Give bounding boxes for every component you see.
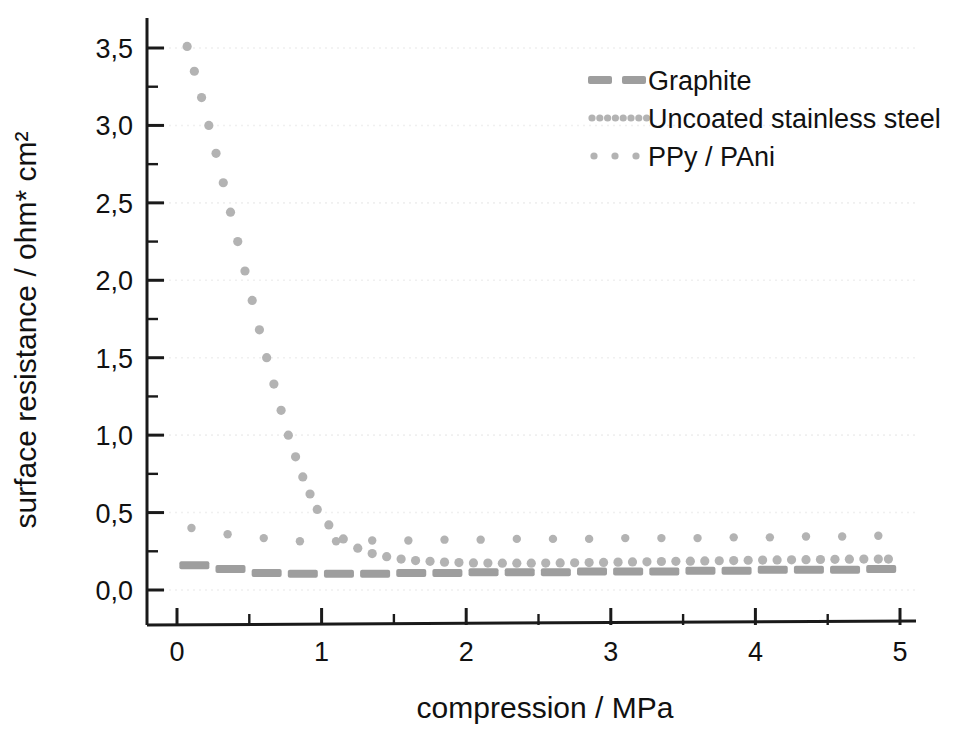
x-axis-title: compression / MPa (417, 691, 674, 724)
data-point (233, 237, 242, 246)
data-point (838, 532, 846, 540)
data-point (671, 557, 680, 566)
data-point (693, 534, 701, 542)
x-tick-label-0: 0 (169, 637, 184, 667)
data-point (211, 149, 220, 158)
data-point (226, 208, 235, 217)
y-tick-label-3: 1,5 (95, 344, 133, 374)
data-point (700, 556, 709, 565)
data-point (498, 559, 507, 568)
data-point (628, 557, 637, 566)
data-point (204, 121, 213, 130)
data-point (513, 535, 521, 543)
data-point (262, 353, 271, 362)
data-point (397, 554, 406, 563)
data-point (874, 554, 883, 563)
data-point (866, 565, 896, 573)
data-point (715, 556, 724, 565)
y-tick-label-2: 1,0 (95, 421, 133, 451)
data-point (599, 558, 608, 567)
data-point (758, 556, 767, 565)
data-point (255, 325, 264, 334)
data-point (223, 530, 231, 538)
data-point (859, 554, 868, 563)
data-point (291, 452, 300, 461)
data-point (219, 178, 228, 187)
data-point (425, 557, 434, 566)
data-point (411, 556, 420, 565)
data-point (305, 489, 314, 498)
data-point (324, 520, 333, 529)
data-point (621, 534, 629, 542)
data-point (512, 559, 521, 568)
data-point (296, 537, 304, 545)
legend-label: PPy / PAni (648, 142, 775, 172)
data-point (240, 266, 249, 275)
legend-label: Graphite (648, 66, 752, 96)
data-point (787, 555, 796, 564)
chart-figure: 012345 0,00,51,01,52,02,53,03,5 Graphite… (0, 0, 954, 741)
data-point (183, 42, 192, 51)
data-point (649, 567, 679, 575)
data-point (758, 566, 788, 574)
data-point (368, 549, 377, 558)
data-point (541, 568, 571, 576)
chart-canvas: 012345 0,00,51,01,52,02,53,03,5 Graphite… (0, 0, 954, 741)
data-point (187, 524, 195, 532)
data-point (657, 534, 665, 542)
data-point (476, 535, 484, 543)
data-point (830, 566, 860, 574)
data-point (404, 536, 412, 544)
data-point (440, 535, 448, 543)
data-point (277, 406, 286, 415)
data-point (585, 558, 594, 567)
data-point (541, 558, 550, 567)
x-tick-label-3: 3 (603, 637, 618, 667)
data-point (884, 554, 893, 563)
data-point (432, 569, 462, 577)
data-point (332, 537, 340, 545)
data-point (772, 555, 781, 564)
x-tick-label-5: 5 (892, 637, 907, 667)
data-point (729, 556, 738, 565)
data-point (179, 561, 209, 569)
y-tick-label-5: 2,5 (95, 189, 133, 219)
data-point (360, 570, 390, 578)
data-point (396, 569, 426, 577)
y-tick-label-0: 0,0 (95, 576, 133, 606)
data-point (252, 569, 282, 577)
data-point (613, 567, 643, 575)
data-point (722, 567, 752, 575)
data-point (613, 558, 622, 567)
data-point (802, 532, 810, 540)
legend-label: Uncoated stainless steel (648, 104, 941, 134)
data-point (440, 558, 449, 567)
data-point (505, 568, 535, 576)
data-point (570, 558, 579, 567)
data-point (298, 472, 307, 481)
x-tick-label-1: 1 (314, 637, 329, 667)
data-point (577, 567, 607, 575)
data-point (527, 559, 536, 568)
y-axis-title: surface resistance / ohm* cm² (9, 132, 42, 529)
y-tick-label-7: 3,5 (95, 34, 133, 64)
data-point (368, 536, 376, 544)
data-point (248, 296, 257, 305)
y-tick-label-1: 0,5 (95, 499, 133, 529)
data-point (730, 533, 738, 541)
y-tick-label-6: 3,0 (95, 111, 133, 141)
data-point (454, 558, 463, 567)
data-point (284, 431, 293, 440)
data-point (685, 567, 715, 575)
x-tick-label-4: 4 (748, 637, 763, 667)
data-point (469, 568, 499, 576)
data-point (313, 505, 322, 514)
data-point (585, 535, 593, 543)
data-point (324, 570, 354, 578)
data-point (353, 544, 362, 553)
data-point (260, 534, 268, 542)
data-point (794, 566, 824, 574)
data-point (288, 570, 318, 578)
data-point (766, 533, 774, 541)
data-point (657, 557, 666, 566)
